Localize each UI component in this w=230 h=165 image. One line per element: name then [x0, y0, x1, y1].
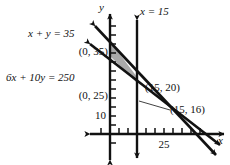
label-line-x-equals-15: x = 15: [140, 6, 169, 17]
label-x-tick-25: 25: [159, 139, 170, 150]
label-point-0-35-text: (0, 35): [79, 45, 108, 57]
label-x-tick-25-text: 25: [159, 138, 170, 150]
label-line-x-plus-y-35: x + y = 35: [28, 28, 75, 39]
label-point-15-20: (15, 20): [145, 82, 180, 93]
label-y-tick-10-text: 10: [95, 109, 106, 121]
label-axis-y-text: y: [99, 1, 104, 13]
label-point-0-35: (0, 35): [79, 46, 108, 57]
label-line-6x-plus-10y-250-text: 6x + 10y = 250: [6, 71, 75, 83]
label-point-0-25: (0, 25): [79, 90, 108, 101]
label-line-6x-plus-10y-250: 6x + 10y = 250: [6, 72, 75, 83]
label-axis-x-text: x: [218, 134, 223, 146]
label-axis-y: y: [99, 2, 104, 13]
label-point-15-20-text: (15, 20): [145, 81, 180, 93]
label-point-0-25-text: (0, 25): [79, 89, 108, 101]
label-point-15-16-text: (15, 16): [170, 103, 205, 115]
label-point-15-16: (15, 16): [170, 104, 205, 115]
label-line-x-plus-y-35-text: x + y = 35: [28, 27, 75, 39]
label-axis-x: x: [218, 135, 223, 146]
label-line-x-equals-15-text: x = 15: [140, 5, 169, 17]
graph-figure: x + y = 35 6x + 10y = 250 x = 15 (0, 35)…: [0, 0, 230, 165]
label-y-tick-10: 10: [95, 110, 106, 121]
